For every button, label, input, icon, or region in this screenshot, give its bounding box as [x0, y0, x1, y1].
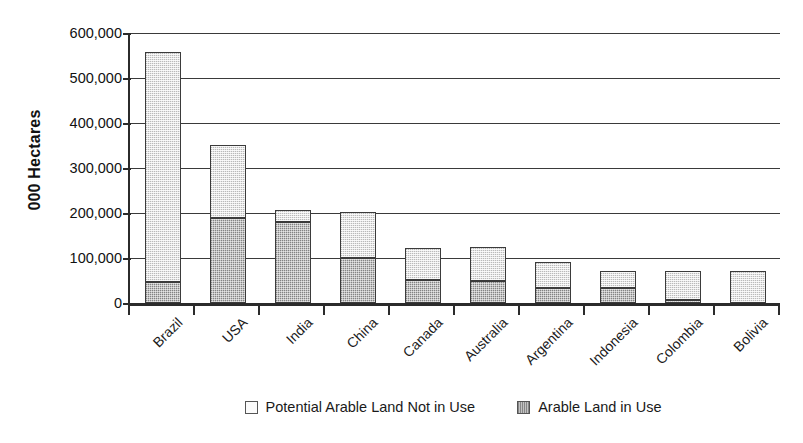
- bar-segment-potential-not-in-use[interactable]: [340, 212, 376, 258]
- x-axis-tick-mark: [648, 306, 650, 315]
- y-axis-tick-label: 100,000: [46, 250, 122, 266]
- y-axis-tick-mark: [123, 33, 131, 35]
- bar-segment-arable-in-use[interactable]: [340, 258, 376, 303]
- bar-stack[interactable]: [535, 262, 571, 303]
- bar-group: [535, 33, 571, 303]
- x-axis-tick-mark: [453, 306, 455, 315]
- legend-label: Arable Land in Use: [538, 399, 661, 415]
- x-axis-category-labels: BrazilUSAIndiaChinaCanadaAustraliaArgent…: [128, 315, 788, 377]
- bar-group: [405, 33, 441, 303]
- bar-group: [340, 33, 376, 303]
- y-axis-tick-mark: [123, 168, 131, 170]
- y-axis-tick-label: 500,000: [46, 70, 122, 86]
- x-axis-tick-mark: [323, 306, 325, 315]
- bar-stack[interactable]: [470, 247, 506, 303]
- bar-segment-potential-not-in-use[interactable]: [535, 262, 571, 288]
- legend-label: Potential Arable Land Not in Use: [266, 399, 476, 415]
- bar-segment-potential-not-in-use[interactable]: [275, 210, 311, 222]
- legend-entry[interactable]: Arable Land in Use: [517, 399, 661, 415]
- bar-stack[interactable]: [405, 248, 441, 303]
- bar-chart-figure: 000 Hectares 600,000500,000400,000300,00…: [0, 0, 803, 443]
- bar-segment-potential-not-in-use[interactable]: [470, 247, 506, 281]
- bar-group: [145, 33, 181, 303]
- y-axis-tick-label: 400,000: [46, 115, 122, 131]
- y-axis-title: 000 Hectares: [22, 10, 48, 310]
- bar-stack[interactable]: [665, 272, 701, 304]
- legend-swatch-in-use-icon: [517, 401, 530, 414]
- y-axis-tick-mark: [123, 78, 131, 80]
- bar-group: [600, 33, 636, 303]
- bar-segment-potential-not-in-use[interactable]: [665, 271, 701, 300]
- bar-group: [665, 33, 701, 303]
- bar-stack[interactable]: [210, 145, 246, 303]
- bar-segment-arable-in-use[interactable]: [600, 288, 636, 303]
- bar-segment-potential-not-in-use[interactable]: [730, 271, 766, 303]
- x-axis-tick-mark: [778, 306, 780, 315]
- bar-segment-arable-in-use[interactable]: [470, 281, 506, 303]
- bar-segment-potential-not-in-use[interactable]: [405, 248, 441, 280]
- bar-segment-potential-not-in-use[interactable]: [145, 52, 181, 282]
- y-axis-tick-label: 300,000: [46, 160, 122, 176]
- bar-segment-arable-in-use[interactable]: [535, 288, 571, 303]
- x-axis-tick-mark: [128, 306, 130, 315]
- legend-entry[interactable]: Potential Arable Land Not in Use: [245, 399, 476, 415]
- legend-swatch-potential-icon: [245, 401, 258, 414]
- y-axis-tick-mark: [123, 258, 131, 260]
- bar-group: [470, 33, 506, 303]
- x-axis-tick-mark: [518, 306, 520, 315]
- bar-stack[interactable]: [600, 271, 636, 303]
- bar-stack[interactable]: [275, 210, 311, 303]
- y-axis-tick-label: 200,000: [46, 205, 122, 221]
- bar-stack[interactable]: [340, 212, 376, 303]
- y-axis-tick-labels: 600,000500,000400,000300,000200,000100,0…: [46, 22, 122, 312]
- bar-segment-arable-in-use[interactable]: [275, 222, 311, 303]
- x-axis-tick-mark: [258, 306, 260, 315]
- bar-segment-potential-not-in-use[interactable]: [600, 271, 636, 288]
- y-axis-tick-mark: [123, 123, 131, 125]
- y-axis-tick-mark: [123, 303, 131, 305]
- y-axis-tick-label: 0: [46, 295, 122, 311]
- bar-series-container: [130, 33, 780, 303]
- chart-legend: Potential Arable Land Not in UseArable L…: [128, 396, 778, 418]
- x-axis-tick-mark: [388, 306, 390, 315]
- x-axis-label-brazil: Brazil: [33, 315, 185, 443]
- bar-group: [730, 33, 766, 303]
- bar-segment-arable-in-use[interactable]: [210, 218, 246, 304]
- plot-area: [128, 33, 780, 303]
- bar-group: [210, 33, 246, 303]
- x-axis-tick-mark: [193, 306, 195, 315]
- y-axis-tick-label: 600,000: [46, 25, 122, 41]
- bar-segment-arable-in-use[interactable]: [145, 282, 181, 303]
- x-axis-tick-mark: [583, 306, 585, 315]
- bar-segment-arable-in-use[interactable]: [405, 280, 441, 303]
- x-axis-tick-mark: [713, 306, 715, 315]
- bar-group: [275, 33, 311, 303]
- bar-stack[interactable]: [730, 271, 766, 303]
- bar-stack[interactable]: [145, 52, 181, 303]
- bar-segment-potential-not-in-use[interactable]: [210, 145, 246, 217]
- y-axis-tick-mark: [123, 213, 131, 215]
